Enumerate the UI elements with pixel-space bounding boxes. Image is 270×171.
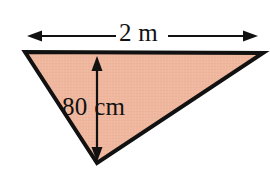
width-arrowhead-right [243,31,258,42]
figure-canvas: 2 m 80 cm [0,0,270,171]
width-dimension-label: 2 m [119,20,158,45]
width-arrowhead-left [27,31,42,42]
triangle-shape [25,52,263,163]
height-dimension-label: 80 cm [62,94,125,119]
